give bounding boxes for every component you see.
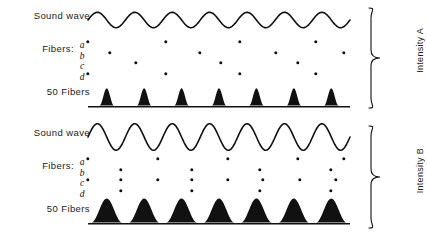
sound-wave-label-a: Sound wave [8, 10, 90, 21]
spike-dot [342, 157, 345, 160]
sound-wave-label-b: Sound wave [8, 127, 90, 138]
population-histogram-b [88, 195, 350, 225]
spike-dot [258, 168, 261, 171]
intensity-a-label: Intensity A [415, 28, 425, 73]
spike-dot [190, 178, 193, 181]
spike-dot [86, 178, 89, 181]
panel-intensity-b: Sound wave Fibers: a b c d 50 Fibers [0, 117, 427, 239]
spike-dot [226, 178, 229, 181]
spike-dot [164, 40, 167, 43]
spike-dot [261, 178, 264, 181]
fifty-fibers-label-b: 50 Fibers [8, 203, 90, 214]
spike-dot [134, 61, 137, 64]
histogram-curve-a [88, 78, 350, 108]
spike-dot [329, 189, 332, 192]
spike-dot [190, 189, 193, 192]
spike-dot [238, 40, 241, 43]
histogram-curve-b [88, 195, 350, 225]
spike-dot [329, 168, 332, 171]
sound-wave-curve-b [88, 121, 350, 153]
spike-dot [334, 178, 337, 181]
spike-dot [314, 40, 317, 43]
brace-intensity-b [367, 124, 383, 230]
spike-dot [198, 51, 201, 54]
fibers-label-a: Fibers: [2, 43, 74, 54]
spike-dot [238, 72, 241, 75]
fiber-letters-a: a b c d [76, 40, 88, 82]
spike-dot [156, 178, 159, 181]
fiber-letter-d: d [76, 189, 88, 200]
spike-dot [342, 51, 345, 54]
fiber-letter-c: c [76, 61, 88, 72]
spike-dot [219, 61, 222, 64]
spike-dot [258, 189, 261, 192]
sound-wave-plot-b [88, 121, 350, 153]
spike-dot [119, 189, 122, 192]
fiber-spike-plot-b [88, 155, 350, 197]
spike-dot [86, 72, 89, 75]
spike-dot [156, 157, 159, 160]
spike-dot [226, 157, 229, 160]
spike-dot [86, 157, 89, 160]
fifty-fibers-label-a: 50 Fibers [8, 86, 90, 97]
spike-dot [119, 178, 122, 181]
spike-dot [86, 40, 89, 43]
sound-wave-plot-a [88, 4, 350, 36]
spike-dot [190, 168, 193, 171]
spike-dot [119, 168, 122, 171]
spike-dot [296, 157, 299, 160]
figure-canvas: Sound wave Fibers: a b c d 50 Fibers Sou… [0, 0, 427, 239]
spike-dot [314, 72, 317, 75]
fiber-letter-b: b [76, 51, 88, 62]
spike-dot [164, 72, 167, 75]
fiber-letter-b: b [76, 168, 88, 179]
fiber-spike-plot-a [88, 38, 350, 80]
population-histogram-a [88, 78, 350, 108]
spike-dot [274, 51, 277, 54]
panel-intensity-a: Sound wave Fibers: a b c d 50 Fibers [0, 0, 427, 119]
fibers-label-b: Fibers: [2, 160, 74, 171]
spike-dot [108, 51, 111, 54]
intensity-b-label: Intensity B [415, 148, 425, 193]
spike-dot [296, 61, 299, 64]
spike-dot [298, 178, 301, 181]
sound-wave-curve-a [88, 4, 350, 36]
brace-intensity-a [367, 6, 383, 110]
